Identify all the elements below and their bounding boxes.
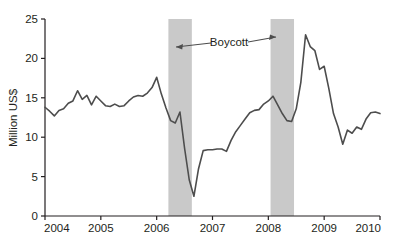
y-tick-label: 20 — [25, 52, 38, 64]
x-axis-ticks — [45, 216, 380, 220]
y-tick-label: 25 — [25, 13, 38, 25]
y-tick-label: 5 — [32, 171, 38, 183]
annotation-label-boycott: Boycott — [210, 36, 249, 48]
x-axis-tick-labels: 2004200520062007200820092010 — [44, 222, 381, 234]
x-tick-label: 2009 — [311, 222, 337, 234]
x-tick-label: 2005 — [88, 222, 114, 234]
y-axis-title: Million US$ — [7, 88, 19, 147]
plot-background — [45, 19, 380, 216]
shaded-region-boycott-2008 — [271, 19, 294, 216]
y-tick-label: 0 — [32, 210, 38, 222]
line-chart: 0510152025 2004200520062007200820092010 … — [0, 0, 412, 244]
x-tick-label: 2008 — [256, 222, 282, 234]
x-tick-label: 2010 — [355, 222, 381, 234]
x-tick-label: 2004 — [44, 222, 70, 234]
y-tick-label: 15 — [25, 92, 38, 104]
y-axis-tick-labels: 0510152025 — [25, 13, 38, 222]
x-tick-label: 2007 — [200, 222, 226, 234]
y-tick-label: 10 — [25, 131, 38, 143]
chart-figure: 0510152025 2004200520062007200820092010 … — [0, 0, 412, 244]
x-tick-label: 2006 — [144, 222, 170, 234]
